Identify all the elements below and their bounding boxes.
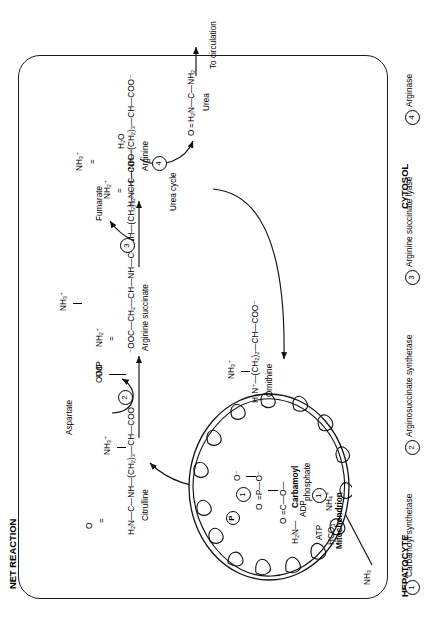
legend-item-1: 1Carbamoyl synthetase bbox=[404, 494, 420, 595]
carbamoyl-phosphate-o-top: O⁻ bbox=[234, 470, 242, 481]
legend-marker-1: 1 bbox=[405, 580, 420, 595]
ornithine-amino: NH₃⁺ bbox=[228, 360, 236, 379]
legend-marker-4: 4 bbox=[405, 110, 420, 125]
urea-double-bond: = bbox=[188, 123, 196, 128]
arginine-double-bond-2: = bbox=[89, 159, 97, 164]
mitochondrion-shape bbox=[186, 389, 352, 585]
arginine-name: Arginine bbox=[142, 141, 150, 171]
bond-tick-as-1 bbox=[73, 303, 82, 304]
arginine-amino: NH₃⁺ bbox=[76, 152, 84, 171]
arginine-succinate-imino: NH₂⁺ bbox=[96, 328, 104, 347]
urea-cycle-label: Urea cycle bbox=[170, 172, 178, 211]
citrulline-amino: NH₃⁺ bbox=[104, 436, 112, 455]
atp-label: ATP bbox=[316, 525, 324, 540]
phosphate-marker: P bbox=[226, 511, 240, 525]
arginine-double-bond: = bbox=[116, 188, 124, 193]
citrulline-name: Citrulline bbox=[142, 489, 150, 521]
urea-backbone: H₂N—C—NH₂ bbox=[188, 70, 196, 122]
bond-tick-as-2 bbox=[109, 374, 126, 375]
reaction-marker-2: 2 bbox=[118, 390, 133, 405]
bond-tick-orn bbox=[241, 371, 250, 372]
arginine-backbone: H₂N—C—NH—(CH₂)₃—CH—COO⁻ bbox=[128, 75, 136, 207]
legend-label-1: Carbamoyl synthetase bbox=[404, 494, 414, 577]
citrulline-double-bond: = bbox=[98, 518, 106, 523]
arginine-imino: NH₂⁺ bbox=[104, 180, 112, 199]
arginine-succinate-carboxyl-branch: COO⁻ bbox=[96, 360, 104, 383]
aspartate-label: Aspartate bbox=[66, 400, 74, 435]
carbamoyl-phosphate-name-1: Carbamoyl bbox=[292, 466, 300, 508]
ammonia-input-label: NH₃ bbox=[364, 570, 372, 585]
legend-item-3: 3Arginine succinate lyase bbox=[404, 177, 420, 285]
legend-item-2: 2Arginosuccinate synthetase bbox=[404, 335, 420, 455]
carbamoyl-phosphate-amine: H₂N— bbox=[292, 521, 300, 544]
diagram-page: NET REACTION 2NH₃ + CO₂ = Urea + H₂O HEP… bbox=[0, 0, 425, 641]
reaction-marker-1b: 1 bbox=[236, 487, 251, 502]
citrulline-backbone: H₂N—C—NH—(CH₂)₃—CH—COO⁻ bbox=[128, 403, 136, 535]
ornithine-backbone: H₃N⁺—(CH₂)₂—CH—COO⁻ bbox=[252, 301, 260, 403]
legend-marker-2: 2 bbox=[405, 440, 420, 455]
legend-marker-3: 3 bbox=[405, 270, 420, 285]
water-label: H₂O bbox=[118, 134, 126, 149]
ornithine-name: Ornithine bbox=[266, 364, 274, 397]
arginine-succinate-double-bond: = bbox=[108, 336, 116, 341]
diagram-canvas: NET REACTION 2NH₃ + CO₂ = Urea + H₂O HEP… bbox=[0, 0, 425, 641]
mitochondrion-label: Mitochondrion bbox=[336, 492, 344, 549]
carbamoyl-phosphate-name-2: phosphate bbox=[304, 463, 312, 501]
legend-item-4: 4Arginase bbox=[404, 74, 420, 125]
arginine-succinate-amino: NH₃⁺ bbox=[60, 292, 68, 311]
citrulline-carbonyl-o: O bbox=[86, 523, 94, 529]
carbamoyl-phosphate-backbone: =C—O— bbox=[280, 482, 288, 515]
bond-tick-citrulline bbox=[117, 447, 126, 448]
adp-label: ADP bbox=[300, 500, 308, 517]
carbamoyl-phosphate-o-double: O bbox=[256, 504, 264, 510]
arginine-succinate-name: Arginine succinate bbox=[142, 284, 150, 351]
carbamoyl-phosphate-carbonyl-o: O bbox=[280, 518, 288, 524]
urea-name: Urea bbox=[203, 93, 211, 111]
carbamoyl-phosphate-backbone-p: =P—O⁻ bbox=[256, 471, 264, 500]
ammonium-label: NH₄⁺ bbox=[326, 492, 334, 512]
to-circulation-label: To circulation bbox=[210, 21, 218, 69]
reaction-marker-1: 1 bbox=[312, 488, 327, 503]
net-reaction-title: NET REACTION bbox=[8, 519, 17, 589]
reaction-marker-3: 3 bbox=[120, 238, 135, 253]
bond-tick-cp-2 bbox=[268, 490, 278, 491]
legend-label-4: Arginase bbox=[404, 74, 414, 107]
urea-carbonyl-o: O bbox=[188, 130, 196, 136]
legend-label-2: Arginosuccinate synthetase bbox=[404, 335, 414, 437]
reaction-marker-4: 4 bbox=[152, 156, 167, 171]
legend-label-3: Arginine succinate lyase bbox=[404, 177, 414, 267]
